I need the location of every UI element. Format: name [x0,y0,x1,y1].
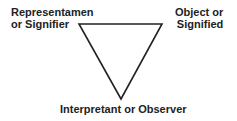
representamen-line2: or Signifier [11,18,94,30]
interpretant-label: Interpretant or Observer [60,103,187,115]
object-label: Object or Signified [175,6,223,30]
representamen-label: Representamen or Signifier [11,6,94,30]
object-line2: Signified [175,18,223,30]
representamen-line1: Representamen [11,6,94,18]
triangle-shape [79,24,162,99]
object-line1: Object or [175,6,223,18]
